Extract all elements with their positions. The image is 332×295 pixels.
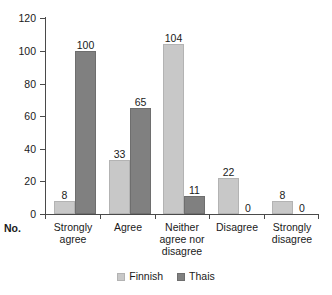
x-tick-end — [318, 215, 319, 219]
bar-finnish-neither[interactable]: 104 — [163, 44, 184, 214]
category-line: disagree — [263, 233, 321, 245]
x-tick-2 — [155, 215, 156, 219]
bar-label-thais-agree: 65 — [135, 97, 147, 108]
bar-finnish-strongly-disagree[interactable]: 8 — [272, 201, 293, 214]
bar-finnish-disagree[interactable]: 22 — [218, 178, 239, 214]
y-tick-label-60: 60 — [24, 111, 36, 122]
category-label-strongly-disagree: Strongly disagree — [263, 221, 321, 245]
y-tick-60 — [40, 116, 45, 117]
bar-finnish-strongly-agree[interactable]: 8 — [54, 201, 75, 214]
legend-swatch-icon-thais — [177, 273, 185, 281]
y-tick-120 — [40, 18, 45, 19]
bar-label-finnish-neither: 104 — [165, 33, 183, 44]
category-label-strongly-agree: Strongly agree — [45, 221, 101, 245]
bar-thais-agree[interactable]: 65 — [130, 108, 151, 214]
y-tick-label-40: 40 — [24, 144, 36, 155]
legend-item-thais[interactable]: Thais — [177, 271, 215, 282]
y-tick-label-80: 80 — [24, 79, 36, 90]
category-line: agree — [45, 233, 101, 245]
y-tick-label-120: 120 — [18, 13, 36, 24]
bar-label-thais-strongly-disagree: 0 — [299, 203, 305, 214]
y-tick-80 — [40, 84, 45, 85]
y-tick-label-20: 20 — [24, 176, 36, 187]
y-tick-100 — [40, 51, 45, 52]
category-label-neither: Neither agree nor disagree — [154, 221, 210, 257]
category-line: Strongly — [45, 221, 101, 233]
bar-label-thais-strongly-agree: 100 — [77, 40, 95, 51]
x-tick-3 — [209, 215, 210, 219]
category-label-disagree: Disagree — [209, 221, 265, 233]
legend-label-finnish: Finnish — [129, 271, 163, 282]
bar-group-disagree: 22 0 — [218, 18, 265, 214]
x-axis-line — [45, 214, 319, 215]
bar-group-agree: 33 65 — [109, 18, 156, 214]
category-line: agree nor — [154, 233, 210, 245]
legend-label-thais: Thais — [189, 271, 215, 282]
y-tick-label-0: 0 — [30, 209, 36, 220]
x-tick-1 — [100, 215, 101, 219]
category-line: Neither — [154, 221, 210, 233]
category-label-agree: Agree — [100, 221, 156, 233]
x-tick-start — [45, 215, 46, 219]
legend-swatch-icon-finnish — [117, 273, 125, 281]
bar-chart: 0 20 40 60 80 100 120 8 100 33 — [0, 0, 332, 295]
bar-label-finnish-strongly-agree: 8 — [62, 190, 68, 201]
bar-label-finnish-strongly-disagree: 8 — [280, 190, 286, 201]
y-tick-20 — [40, 181, 45, 182]
bar-group-neither: 104 11 — [163, 18, 210, 214]
category-line: Strongly — [263, 221, 321, 233]
category-line: Disagree — [209, 221, 265, 233]
bar-label-finnish-disagree: 22 — [223, 167, 235, 178]
category-line: Agree — [100, 221, 156, 233]
bar-label-finnish-agree: 33 — [114, 149, 126, 160]
chart-legend: Finnish Thais — [0, 271, 332, 282]
y-tick-label-100: 100 — [18, 46, 36, 57]
bar-label-thais-disagree: 0 — [245, 203, 251, 214]
bar-label-thais-neither: 11 — [189, 185, 200, 196]
x-axis-name: No. — [4, 222, 21, 234]
x-tick-4 — [264, 215, 265, 219]
y-tick-40 — [40, 149, 45, 150]
legend-item-finnish[interactable]: Finnish — [117, 271, 163, 282]
bar-thais-neither[interactable]: 11 — [184, 196, 205, 214]
bar-finnish-agree[interactable]: 33 — [109, 160, 130, 214]
bar-group-strongly-agree: 8 100 — [54, 18, 101, 214]
bar-thais-strongly-agree[interactable]: 100 — [75, 51, 96, 214]
plot-area: 8 100 33 65 104 11 2 — [46, 18, 318, 214]
bar-group-strongly-disagree: 8 0 — [272, 18, 319, 214]
category-line: disagree — [154, 245, 210, 257]
